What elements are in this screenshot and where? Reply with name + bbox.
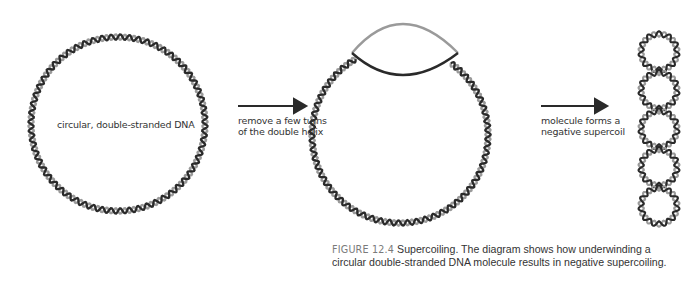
separated-strand-dark (352, 53, 458, 75)
figure-caption: FIGURE 12.4 Supercoiling. The diagram sh… (332, 243, 672, 269)
relaxed-dna-label: circular, double-stranded DNA (57, 119, 194, 130)
arrow-1-label: remove a few turns of the double helix (238, 115, 327, 137)
arrow-2-label-line2: negative supercoil (541, 126, 625, 137)
negative-supercoil (639, 31, 680, 226)
separated-strand-light (352, 24, 458, 53)
underwound-circular-dna (309, 58, 490, 226)
arrow-1-label-line2: of the double helix (238, 126, 327, 137)
arrow-1-label-line1: remove a few turns (238, 115, 327, 126)
arrow-2-label-line1: molecule forms a (541, 115, 625, 126)
figure-label: FIGURE 12.4 (332, 244, 394, 255)
arrow-2-label: molecule forms a negative supercoil (541, 115, 625, 137)
